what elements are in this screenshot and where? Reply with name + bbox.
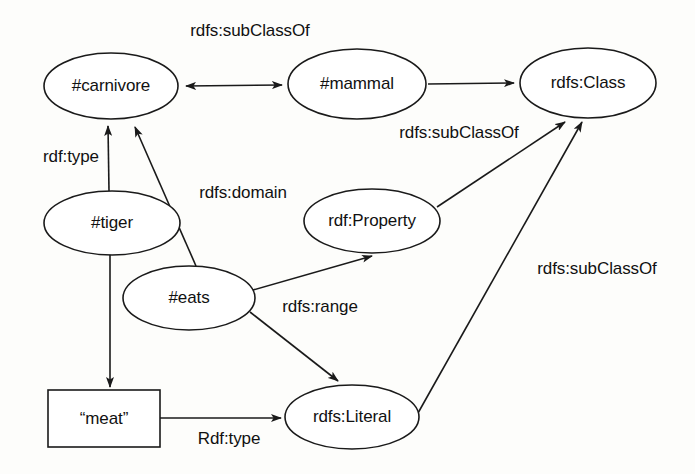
node-label-carnivore: #carnivore [72, 76, 150, 96]
edge-label-rdftype-meat-literal: Rdf:type [198, 429, 261, 449]
node-label-mammal: #mammal [320, 74, 394, 94]
node-shape-layer [44, 48, 656, 449]
edge-tiger-carnivore [108, 126, 109, 191]
diagram-canvas: #carnivore #mammal rdfs:Class #tiger rdf… [0, 0, 695, 474]
node-label-rdf-property: rdf:Property [328, 211, 416, 231]
graph-svg [0, 0, 695, 474]
edge-label-subclassof-carnivore-mammal: rdfs:subClassOf [190, 21, 309, 41]
node-label-rdfs-literal: rdfs:Literal [313, 407, 391, 427]
edge-eats-rdfproperty [253, 256, 372, 290]
node-label-eats: #eats [168, 288, 209, 308]
node-label-rdfs-class: rdfs:Class [551, 73, 626, 93]
node-label-meat: “meat” [80, 409, 129, 429]
edge-mammal-rdfsclass [428, 83, 514, 84]
edge-label-subclassof-literal-class: rdfs:subClassOf [537, 259, 656, 279]
edge-label-rdfsdomain-eats-carnivore: rdfs:domain [199, 183, 287, 203]
edge-eats-rdfsliteral [250, 312, 338, 381]
edge-carnivore-mammal [186, 85, 282, 86]
node-label-tiger: #tiger [91, 213, 133, 233]
edge-label-subclassof-mammal-class: rdfs:subClassOf [399, 123, 518, 143]
edge-label-rdftype-tiger-carnivore: rdf:type [43, 147, 99, 167]
edge-label-rdfsrange-eats-literal: rdfs:range [282, 297, 358, 317]
